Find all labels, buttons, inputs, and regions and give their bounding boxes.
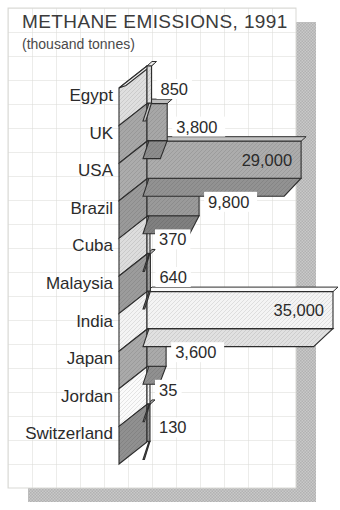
- value-label-jordan: 35: [159, 381, 177, 399]
- category-label-malaysia: Malaysia: [46, 274, 114, 293]
- value-label-japan: 3,600: [175, 343, 216, 361]
- chart-subtitle: (thousand tonnes): [22, 36, 135, 52]
- category-label-egypt: Egypt: [70, 86, 114, 105]
- bar-egypt-front-face-texture: [147, 66, 152, 103]
- category-label-usa: USA: [78, 161, 114, 180]
- bar-india-top-face: [147, 287, 338, 292]
- value-label-switzerland: 130: [159, 418, 187, 436]
- chart-figure: Egypt850UK3,800USA29,000Brazil9,800Cuba3…: [0, 0, 340, 510]
- category-label-jordan: Jordan: [61, 387, 113, 406]
- bar-chart-canvas: Egypt850UK3,800USA29,000Brazil9,800Cuba3…: [0, 0, 340, 510]
- category-label-brazil: Brazil: [70, 199, 113, 218]
- bar-usa-top-face: [147, 137, 306, 142]
- category-label-india: India: [76, 312, 113, 331]
- value-label-uk: 3,800: [176, 118, 217, 136]
- category-label-uk: UK: [89, 124, 113, 143]
- category-label-cuba: Cuba: [72, 236, 113, 255]
- value-label-egypt: 850: [161, 80, 189, 98]
- category-label-japan: Japan: [67, 349, 113, 368]
- category-label-switzerland: Switzerland: [25, 424, 113, 443]
- value-label-india: 35,000: [274, 301, 324, 319]
- value-label-cuba: 370: [159, 230, 187, 248]
- value-label-brazil: 9,800: [208, 193, 249, 211]
- value-label-usa: 29,000: [242, 151, 292, 169]
- value-label-malaysia: 640: [159, 268, 187, 286]
- chart-title: METHANE EMISSIONS, 1991: [22, 11, 288, 33]
